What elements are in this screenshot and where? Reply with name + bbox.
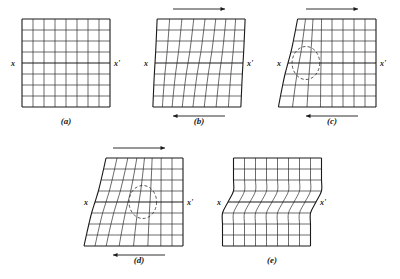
panel-c: xx'(c) (276, 7, 387, 126)
top-shear-arrow-d (113, 146, 165, 150)
panel-caption-e: (e) (267, 255, 277, 265)
x-prime-label: x' (319, 198, 327, 207)
x-label: x (276, 59, 281, 68)
panel-b: xx'(b) (143, 7, 254, 126)
arrow-head (173, 114, 178, 118)
crystal-grid-c (278, 19, 376, 107)
x-prime-label: x' (246, 59, 254, 68)
x-label: x (216, 198, 221, 207)
crystal-grid-b (153, 19, 245, 107)
crystal-grid-a (22, 19, 110, 107)
x-label: x (143, 59, 148, 68)
x-label: x (83, 198, 88, 207)
top-shear-arrow-c (306, 7, 358, 11)
x-prime-label: x' (113, 59, 121, 68)
panel-d: xx'(d) (83, 146, 194, 265)
figure-canvas: xx'(a)xx'(b)xx'(c)xx'(d)xx'(e) (0, 0, 400, 279)
panel-caption-d: (d) (134, 255, 145, 265)
panel-caption-a: (a) (61, 116, 72, 126)
crystal-grid-e (222, 158, 322, 246)
crystal-grid-d (84, 158, 183, 246)
dislocation-slip-figure: xx'(a)xx'(b)xx'(c)xx'(d)xx'(e) (0, 0, 400, 279)
panel-caption-b: (b) (194, 116, 205, 126)
panel-a: xx'(a) (10, 19, 121, 126)
arrow-head (221, 7, 226, 11)
top-shear-arrow-b (173, 7, 225, 11)
panel-e: xx'(e) (216, 158, 327, 265)
x-label: x (10, 59, 15, 68)
arrow-head (113, 253, 118, 257)
x-prime-label: x' (379, 59, 387, 68)
arrow-head (161, 146, 166, 150)
x-prime-label: x' (186, 198, 194, 207)
panel-caption-c: (c) (327, 116, 337, 126)
arrow-head (354, 7, 359, 11)
arrow-head (306, 114, 311, 118)
